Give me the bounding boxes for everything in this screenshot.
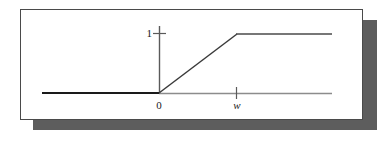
y-axis-tick-label-one: 1 xyxy=(140,28,152,39)
origin-label: 0 xyxy=(153,100,165,111)
x-axis-tick-label-w: w xyxy=(230,100,244,111)
plot-canvas xyxy=(0,0,390,143)
figure-root: 1 0 w xyxy=(0,0,390,143)
curve-ramp-segment xyxy=(159,34,237,93)
